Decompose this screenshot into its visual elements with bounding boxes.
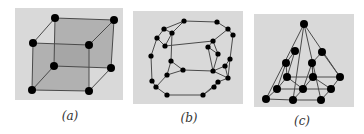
vertex-node bbox=[205, 44, 210, 49]
vertex-node bbox=[214, 19, 219, 24]
vertex-node bbox=[148, 53, 153, 58]
panel-c-caption: (c) bbox=[294, 114, 310, 128]
vertex-node bbox=[225, 75, 230, 80]
vertex-node bbox=[181, 18, 186, 23]
vertex-node bbox=[164, 92, 169, 97]
vertex-node bbox=[282, 59, 290, 67]
vertex-node bbox=[309, 73, 317, 81]
vertex-node bbox=[211, 84, 216, 89]
vertex-node bbox=[162, 43, 167, 48]
vertex-node bbox=[149, 78, 154, 83]
vertex-node bbox=[215, 51, 220, 56]
vertex-node bbox=[215, 79, 220, 84]
vertex-node bbox=[50, 62, 58, 70]
vertex-node bbox=[85, 41, 93, 49]
vertex-node bbox=[230, 32, 235, 37]
panel-b: (b) bbox=[133, 11, 243, 125]
vertex-node bbox=[283, 73, 291, 81]
figure-canvas: (a)(b)(c) bbox=[0, 0, 364, 134]
vertex-node bbox=[318, 48, 326, 56]
vertex-node bbox=[28, 86, 36, 94]
vertex-node bbox=[299, 85, 307, 93]
vertex-node bbox=[169, 30, 174, 35]
vertex-node bbox=[210, 38, 215, 43]
vertex-node bbox=[154, 35, 159, 40]
vertex-node bbox=[336, 73, 344, 81]
vertex-node bbox=[200, 92, 205, 97]
vertex-node bbox=[51, 14, 59, 22]
vertex-node bbox=[273, 85, 281, 93]
vertex-node bbox=[317, 96, 325, 104]
vertex-node bbox=[107, 64, 115, 72]
vertex-node bbox=[29, 39, 37, 47]
panel-a-caption: (a) bbox=[62, 109, 79, 123]
vertex-node bbox=[308, 59, 316, 67]
panel-a: (a) bbox=[15, 8, 123, 123]
vertex-node bbox=[161, 26, 166, 31]
vertex-node bbox=[168, 58, 173, 63]
vertex-node bbox=[262, 95, 270, 103]
vertex-node bbox=[85, 87, 93, 95]
vertex-node bbox=[210, 68, 215, 73]
vertex-node bbox=[327, 85, 335, 93]
panel-c: (c) bbox=[254, 14, 354, 128]
vertex-node bbox=[180, 67, 185, 72]
vertex-node bbox=[227, 56, 232, 61]
vertex-node bbox=[222, 63, 227, 68]
vertex-node bbox=[300, 20, 308, 28]
vertex-node bbox=[110, 16, 118, 24]
vertex-node bbox=[153, 84, 158, 89]
vertex-node bbox=[225, 26, 230, 31]
vertex-node bbox=[291, 47, 299, 55]
vertex-node bbox=[289, 96, 297, 104]
vertex-node bbox=[164, 72, 169, 77]
panel-b-caption: (b) bbox=[180, 111, 197, 125]
